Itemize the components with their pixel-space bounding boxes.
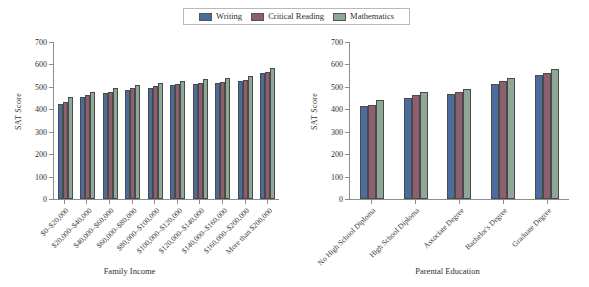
y-tick-label: 0	[339, 195, 343, 204]
bar-group	[80, 42, 95, 199]
chart-legend: WritingCritical ReadingMathematics	[183, 8, 410, 25]
plot-area: 7006005004003002001000	[53, 42, 279, 200]
bar[interactable]	[551, 69, 559, 199]
bar[interactable]	[368, 105, 376, 199]
legend-entry[interactable]: Writing	[199, 12, 242, 21]
y-tick-label: 200	[331, 150, 343, 159]
bar[interactable]	[248, 76, 253, 199]
bar[interactable]	[270, 68, 275, 199]
bar[interactable]	[404, 98, 412, 199]
bar[interactable]	[420, 92, 428, 199]
plot-area: 7006005004003002001000	[349, 42, 569, 200]
bar[interactable]	[90, 92, 95, 199]
bar-group	[215, 42, 230, 199]
y-axis-label: SAT Score	[310, 93, 319, 130]
legend-label: Mathematics	[350, 12, 394, 21]
bar[interactable]	[535, 75, 543, 199]
x-tick-label: Bachelor's Degree	[464, 206, 510, 252]
y-tick	[49, 87, 53, 88]
y-tick-label: 100	[331, 172, 343, 181]
bar-group	[404, 42, 428, 199]
bar-group	[491, 42, 515, 199]
legend-entry[interactable]: Critical Reading	[251, 12, 324, 21]
bar[interactable]	[360, 106, 368, 199]
bar-group	[260, 42, 275, 199]
y-tick-label: 0	[43, 195, 47, 204]
bar-group-container	[350, 42, 569, 199]
bar[interactable]	[491, 84, 499, 200]
legend-entry[interactable]: Mathematics	[333, 12, 394, 21]
bar[interactable]	[113, 88, 118, 199]
y-tick-label: 700	[35, 38, 47, 47]
y-tick	[345, 132, 349, 133]
bar[interactable]	[376, 100, 384, 199]
bar[interactable]	[455, 92, 463, 199]
bar[interactable]	[135, 85, 140, 199]
chart-panel-family-income: SAT Score 7006005004003002001000 $0–$20,…	[0, 38, 295, 287]
y-tick	[49, 177, 53, 178]
bar-group	[58, 42, 73, 199]
y-tick	[49, 109, 53, 110]
bar[interactable]	[463, 89, 471, 199]
y-tick	[49, 42, 53, 43]
y-tick	[49, 154, 53, 155]
bar[interactable]	[203, 79, 208, 199]
y-tick-label: 200	[35, 150, 47, 159]
bar[interactable]	[180, 81, 185, 199]
bar[interactable]	[68, 97, 73, 199]
bar-group	[238, 42, 253, 199]
bar-group	[360, 42, 384, 199]
x-tick-label: High School Diploma	[368, 206, 421, 259]
y-tick-label: 100	[35, 172, 47, 181]
x-tick-labels: $0–$20,000$20,000–$40,000$40,000–$60,000…	[53, 204, 279, 274]
y-tick-label: 300	[35, 127, 47, 136]
bar-group	[170, 42, 185, 199]
bar[interactable]	[412, 95, 420, 199]
bar[interactable]	[507, 78, 515, 199]
legend-label: Writing	[216, 12, 242, 21]
y-tick	[49, 64, 53, 65]
y-tick	[345, 177, 349, 178]
y-tick	[49, 132, 53, 133]
legend-label: Critical Reading	[268, 12, 324, 21]
y-tick-label: 500	[331, 82, 343, 91]
chart-panel-parental-education: SAT Score 7006005004003002001000 No High…	[294, 38, 589, 287]
x-axis-title: Parental Education	[300, 266, 589, 276]
bar-group	[125, 42, 140, 199]
y-tick	[345, 109, 349, 110]
bar-group	[148, 42, 163, 199]
y-tick-label: 400	[35, 105, 47, 114]
x-tick-label: Graduate Degree	[510, 206, 553, 249]
y-tick-label: 400	[331, 105, 343, 114]
bar[interactable]	[225, 78, 230, 199]
bar[interactable]	[543, 73, 551, 199]
bar-group-container	[54, 42, 279, 199]
y-tick-label: 300	[331, 127, 343, 136]
bar[interactable]	[158, 83, 163, 199]
y-tick-label: 500	[35, 82, 47, 91]
bar-group	[103, 42, 118, 199]
y-tick	[345, 64, 349, 65]
legend-swatch-icon	[333, 13, 346, 21]
x-tick-labels: No High School DiplomaHigh School Diplom…	[349, 204, 569, 274]
y-tick-label: 600	[35, 60, 47, 69]
bar-group	[535, 42, 559, 199]
y-tick	[345, 87, 349, 88]
x-tick-label: No High School Diploma	[316, 206, 377, 267]
y-tick-label: 700	[331, 38, 343, 47]
y-tick-label: 600	[331, 60, 343, 69]
x-axis-title: Family Income	[0, 266, 277, 276]
x-tick-label: Associate Degree	[421, 206, 465, 250]
legend-swatch-icon	[199, 13, 212, 21]
y-axis-label: SAT Score	[14, 93, 23, 130]
bar[interactable]	[447, 94, 455, 199]
bar[interactable]	[499, 81, 507, 199]
y-tick	[345, 154, 349, 155]
legend-swatch-icon	[251, 13, 264, 21]
bar-group	[447, 42, 471, 199]
y-tick	[345, 42, 349, 43]
bar-group	[193, 42, 208, 199]
